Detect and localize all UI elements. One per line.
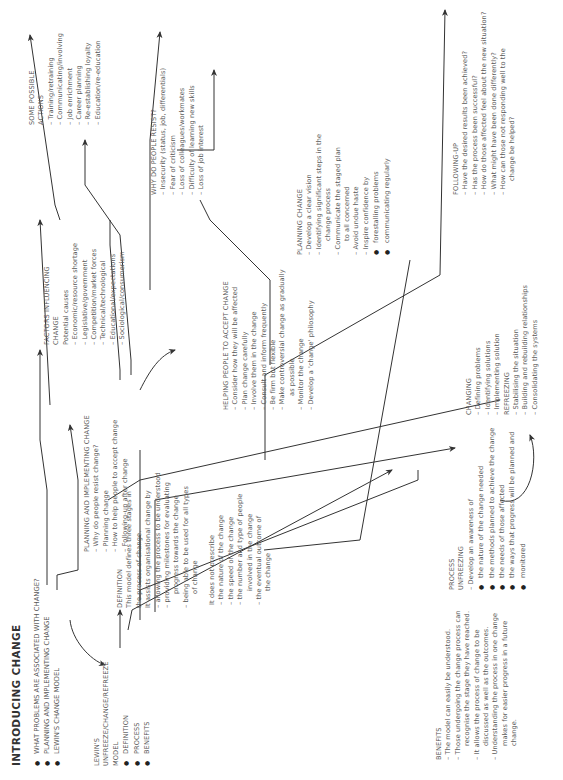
benefits-item: recognise the stage they have reached. xyxy=(463,610,472,760)
benefits-item: The model can easily be understood. xyxy=(444,610,453,760)
topic-planning: PLANNING AND IMPLEMENTING CHANGE xyxy=(42,578,52,766)
process-bullet: the methods planned to achieve the chang… xyxy=(487,428,497,590)
actions-heading-1: SOME POSSIBLE xyxy=(28,33,37,125)
topic-lewin: LEWIN'S CHANGE MODEL xyxy=(52,578,62,766)
planning-implementing-block: PLANNING AND IMPLEMENTING CHANGE Why do … xyxy=(83,415,130,552)
benefits-item: Understanding the process in one change xyxy=(491,610,500,760)
process-bullet: monitored xyxy=(518,428,528,590)
planning-implementing-heading: PLANNING AND IMPLEMENTING CHANGE xyxy=(83,415,92,552)
planning-change-bullet: communicating regularly xyxy=(382,134,392,255)
factors-heading-1: FACTORS INFLUENCING xyxy=(43,243,52,345)
changing-heading: CHANGING xyxy=(465,285,474,415)
following-up-item: How do those affected feel about the new… xyxy=(480,12,489,196)
planning-implementing-item: Why do people resist change? xyxy=(92,415,101,552)
helping-item: Develop a 'change' philosophy xyxy=(307,269,316,410)
changing-block: CHANGING Defining problems Identifying s… xyxy=(465,285,540,415)
process-block: PROCESS UNFREEZING Develop an awareness … xyxy=(448,428,528,590)
not-prescribe-heading: It does not prescribe xyxy=(208,494,217,605)
following-up-item: Have the desired results been achieved? xyxy=(461,12,470,196)
changing-item: Defining problems xyxy=(474,285,483,415)
lewin-bullet-benefits: BENEFITS xyxy=(142,662,152,766)
planning-change-item: Communicate the staged plan xyxy=(334,134,343,255)
following-up-item: What might have been done differently? xyxy=(490,12,499,196)
planning-change-item: Identifying significant steps in the xyxy=(315,134,324,255)
definition-line: of change xyxy=(191,472,200,608)
not-prescribe-item: involved in the change xyxy=(246,494,255,605)
why-resist-item: Insecurity (status, job, differentials) xyxy=(159,68,168,195)
not-prescribe-item: the speed of the change xyxy=(227,494,236,605)
helping-item: Consider how they will be affected xyxy=(231,269,240,410)
benefits-item: Those undergoing the change process can xyxy=(454,610,463,760)
actions-item: Job enrichment xyxy=(66,33,75,125)
process-bullet: the needs of those affected xyxy=(497,428,507,590)
page-title: INTRODUCING CHANGE xyxy=(10,625,22,766)
lewin-model-block: LEWIN'S UNFREEZE/CHANGE/REFREEZE MODEL D… xyxy=(93,662,152,766)
helping-item: Involve them in the change xyxy=(250,269,259,410)
definition-line: – allowing the process to be understood xyxy=(154,472,163,608)
lewin-heading-3: MODEL xyxy=(112,662,121,766)
definition-line: – providing milestones for evaluating xyxy=(163,472,172,608)
following-up-item: change be helped? xyxy=(508,12,517,196)
factors-heading-2: CHANGE xyxy=(52,243,61,345)
helping-item: Make controversial change as gradually xyxy=(278,269,287,410)
actions-item: Training/retraining xyxy=(47,33,56,125)
factors-subheading: Potential causes xyxy=(62,243,71,345)
process-bullet: the ways that progress will be planned a… xyxy=(507,428,517,590)
actions-heading-2: ACTIONS xyxy=(37,33,46,125)
definition-line: the process of change. xyxy=(135,472,144,608)
planning-change-heading: PLANNING CHANGE xyxy=(296,134,305,255)
process-bullet: the nature of the change needed xyxy=(476,428,486,590)
why-resist-block: WHY DO PEOPLE RESIST? Insecurity (status… xyxy=(150,68,206,195)
helping-block: HELPING PEOPLE TO ACCEPT CHANGE Consider… xyxy=(222,269,316,410)
factors-block: FACTORS INFLUENCING CHANGE Potential cau… xyxy=(43,243,128,345)
awareness-line: Develop an awareness of xyxy=(467,428,476,590)
lewin-heading-1: LEWIN'S xyxy=(93,662,102,766)
factors-item: Sociological/consumerism xyxy=(118,243,127,345)
planning-change-item: Inspire confidence by xyxy=(362,134,371,255)
planning-change-block: PLANNING CHANGE Develop a clear vision I… xyxy=(296,134,392,255)
not-prescribe-block: It does not prescribe the nature of the … xyxy=(208,494,274,605)
planning-implementing-item: How to help people to accept change xyxy=(111,415,120,552)
not-prescribe-item: the change xyxy=(264,494,273,605)
planning-implementing-item: Planning change xyxy=(102,415,111,552)
helping-item: Plan change carefully xyxy=(241,269,250,410)
not-prescribe-item: the eventual outcome of xyxy=(255,494,264,605)
benefits-item: change. xyxy=(510,610,519,760)
following-up-heading: FOLLOWING-UP xyxy=(452,12,461,196)
planning-implementing-item: Following-up after change xyxy=(121,415,130,552)
benefits-block: BENEFITS The model can easily be underst… xyxy=(435,610,520,760)
factors-item: Technical/technological xyxy=(99,243,108,345)
factors-item: Economic/resource shortage xyxy=(71,243,80,345)
changing-item: Implementing solution xyxy=(493,285,502,415)
benefits-heading: BENEFITS xyxy=(435,610,444,760)
actions-item: Communicating/involving xyxy=(56,33,65,125)
refreezing-label: REFREEZING xyxy=(503,285,512,415)
benefits-item: It allows the process of change to be xyxy=(473,610,482,760)
topic-problems: WHAT PROBLEMS ARE ASSOCIATED WITH CHANGE… xyxy=(32,578,42,766)
refreezing-item: Stabilising the situation xyxy=(512,285,521,415)
mind-map-canvas: INTRODUCING CHANGE WHAT PROBLEMS ARE ASS… xyxy=(0,0,563,780)
factors-item: Educational/expectations xyxy=(109,243,118,345)
not-prescribe-item: the nature of the change xyxy=(217,494,226,605)
planning-change-item: Develop a clear vision xyxy=(305,134,314,255)
actions-item: Education/re-education xyxy=(94,33,103,125)
benefits-item: makes for easier progress in a future xyxy=(501,610,510,760)
lewin-heading-2: UNFREEZE/CHANGE/REFREEZE xyxy=(102,662,111,766)
refreezing-item: Building and rebuilding relationships xyxy=(521,285,530,415)
helping-item: as possible xyxy=(288,269,297,410)
helping-item: Consult and inform frequently xyxy=(260,269,269,410)
planning-change-item: change process xyxy=(324,134,333,255)
refreezing-item: Consolidating the systems xyxy=(531,285,540,415)
actions-item: Career planning xyxy=(75,33,84,125)
helping-item: Monitor the change xyxy=(297,269,306,410)
main-topic-list: WHAT PROBLEMS ARE ASSOCIATED WITH CHANGE… xyxy=(32,578,62,766)
helping-heading: HELPING PEOPLE TO ACCEPT CHANGE xyxy=(222,269,231,410)
following-up-item: Has the process been successful? xyxy=(471,12,480,196)
helping-item: Be firm but flexible xyxy=(269,269,278,410)
planning-change-item: to all concerned xyxy=(343,134,352,255)
changing-item: Identifying solutions xyxy=(484,285,493,415)
lewin-bullet-process: PROCESS xyxy=(132,662,142,766)
lewin-bullet-definition: DEFINITION xyxy=(121,662,131,766)
unfreezing-label: UNFREEZING xyxy=(457,428,466,590)
definition-line: It assists organisational change by xyxy=(144,472,153,608)
